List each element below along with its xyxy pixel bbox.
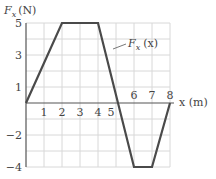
y-tick-label: −4 <box>6 161 22 174</box>
x-tick-label: 8 <box>167 89 174 102</box>
x-tick-label: 4 <box>95 106 102 119</box>
series-label-leader <box>113 44 126 49</box>
y-tick-label: 3 <box>15 49 22 62</box>
chart: 12345678531−2−4 Fx(N) x (m) Fx(x) <box>0 0 216 179</box>
x-axis-label: x (m) <box>179 96 208 109</box>
x-tick-label: 7 <box>149 89 156 102</box>
x-tick-label: 2 <box>59 106 66 119</box>
y-axis-label: Fx(N) <box>3 4 36 19</box>
series-label: Fx(x) <box>127 37 158 52</box>
y-tick-label: −2 <box>6 129 22 142</box>
x-tick-label: 3 <box>77 106 84 119</box>
x-tick-label: 1 <box>41 106 48 119</box>
y-tick-label: 1 <box>15 81 22 94</box>
x-tick-label: 6 <box>131 89 138 102</box>
x-tick-label: 5 <box>108 106 115 119</box>
